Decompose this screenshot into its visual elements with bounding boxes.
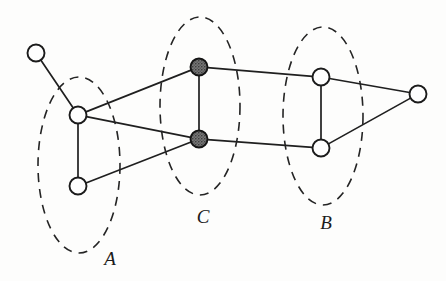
graph-edge bbox=[41, 60, 73, 108]
graph-node-open bbox=[313, 140, 330, 157]
group-boundary-a bbox=[38, 77, 120, 253]
graph-node-filled bbox=[191, 131, 208, 148]
graph-figure: ACB bbox=[0, 0, 446, 281]
graph-edge bbox=[329, 78, 409, 92]
graph-node-open bbox=[410, 86, 427, 103]
group-boundary-b bbox=[283, 27, 363, 205]
graph-node-open bbox=[28, 45, 45, 62]
graph-node-open bbox=[70, 178, 87, 195]
group-labels-layer: ACB bbox=[102, 206, 332, 269]
graph-edge bbox=[328, 98, 410, 144]
group-label-a: A bbox=[102, 248, 116, 269]
graph-node-filled bbox=[191, 59, 208, 76]
group-label-c: C bbox=[197, 206, 210, 227]
graph-node-open bbox=[70, 107, 87, 124]
group-boundary-c bbox=[160, 17, 240, 195]
edges-layer bbox=[41, 60, 411, 183]
graph-canvas: ACB bbox=[0, 0, 446, 281]
group-label-b: B bbox=[320, 212, 332, 233]
graph-edge bbox=[207, 140, 312, 148]
graph-edge bbox=[86, 117, 190, 138]
graph-edge bbox=[207, 68, 312, 77]
graph-node-open bbox=[313, 69, 330, 86]
